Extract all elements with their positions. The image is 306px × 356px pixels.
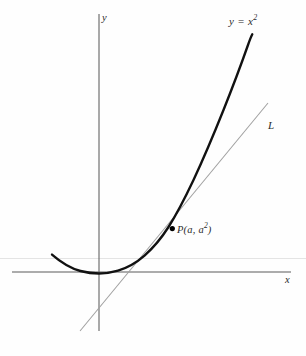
x-axis-label: x (285, 275, 290, 286)
curve-label-base: y = x (229, 15, 253, 27)
y-axis-label: y (102, 13, 107, 24)
curve-label: y = x2 (229, 14, 257, 27)
tangent-line-label: L (268, 120, 274, 131)
point-label: P(a, a2) (177, 222, 212, 235)
math-figure: y = x2 L P(a, a2) y x (0, 0, 306, 356)
tangency-point-dot (170, 226, 175, 231)
diagram-canvas (0, 0, 306, 356)
parabola-curve (52, 34, 252, 273)
curve-label-exponent: 2 (253, 13, 257, 22)
point-label-prefix: P(a, a (177, 224, 204, 235)
point-label-suffix: ) (208, 224, 212, 235)
